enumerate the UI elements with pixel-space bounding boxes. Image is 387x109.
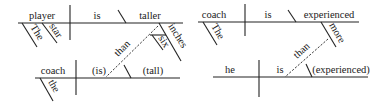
complement-word: taller	[139, 10, 161, 21]
modifier-word: more	[327, 21, 347, 45]
verb-word: is	[93, 10, 100, 21]
connector-word: than	[112, 37, 133, 58]
modifier-word: star	[47, 21, 65, 40]
diagram-2: coach is experienced The more than he is…	[198, 4, 370, 97]
sub-complement-word: (tall)	[143, 65, 164, 77]
modifier-word: the	[46, 78, 62, 95]
modifier-word: The	[209, 22, 227, 42]
sentence-diagram-figure: player is taller The star inches six tha…	[0, 0, 387, 109]
sub-subject-word: coach	[41, 65, 66, 76]
sub-verb-word: is	[276, 64, 283, 75]
subject-word: player	[29, 10, 56, 21]
verb-word: is	[264, 9, 271, 20]
sub-complement-word: (experienced)	[312, 64, 370, 76]
connector-word: than	[291, 40, 312, 61]
diagram-1: player is taller The star inches six tha…	[18, 5, 190, 101]
modifier-word: six	[156, 33, 172, 50]
sub-subject-word: he	[225, 64, 235, 75]
complement-slash	[118, 10, 126, 23]
sub-complement-slash	[306, 64, 312, 77]
complement-word: experienced	[304, 9, 355, 20]
sub-verb-word: (is)	[92, 65, 107, 77]
sub-complement-slash	[124, 65, 131, 78]
subject-word: coach	[202, 9, 227, 20]
complement-slash	[288, 10, 296, 22]
modifier-word: inches	[166, 21, 190, 50]
